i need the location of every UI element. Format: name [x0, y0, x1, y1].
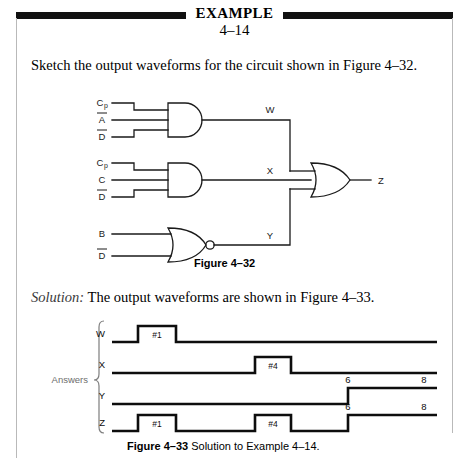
waveform-label-y: Y [99, 390, 106, 401]
waveform-y-trace [112, 388, 437, 404]
tick-label-y-6: 6 [345, 374, 350, 385]
waveform-label-z: Z [99, 417, 105, 428]
pulse-label-w-1: #1 [152, 330, 162, 340]
waveform-label-w: W [96, 328, 105, 339]
figure-4-33-waveforms: Answers W X Y Z #1 #4 #1 #4 6 8 [0, 0, 469, 468]
example-page: EXAMPLE 4–14 Sketch the output waveforms… [0, 0, 469, 468]
figure-33-caption-rest: Solution to Example 4–14. [191, 440, 319, 452]
pulse-label-x-4: #4 [268, 361, 278, 371]
answers-brace-label: Answers [52, 374, 89, 385]
pulse-label-z-4: #4 [268, 419, 278, 429]
tick-label-z-6: 6 [345, 401, 350, 412]
figure-33-caption: Figure 4–33 Solution to Example 4–14. [127, 440, 320, 452]
pulse-label-z-1: #1 [152, 419, 162, 429]
tick-label-z-8: 8 [421, 401, 426, 412]
tick-label-y-8: 8 [421, 374, 426, 385]
waveform-label-x: X [99, 359, 106, 370]
figure-33-caption-bold: Figure 4–33 [127, 440, 188, 452]
